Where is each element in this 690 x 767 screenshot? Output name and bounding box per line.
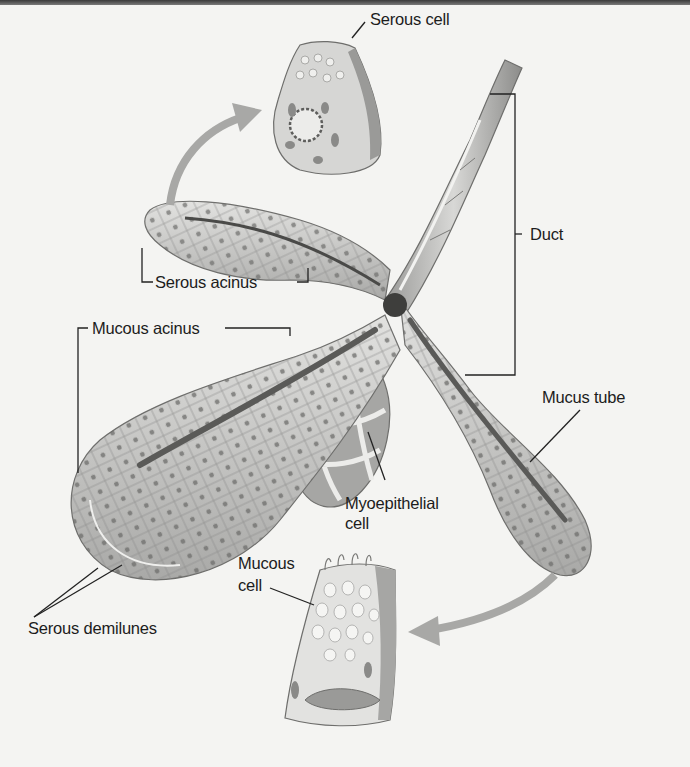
mucous-acinus-bracket-left xyxy=(78,328,88,473)
serous-cell-illustration xyxy=(274,42,381,175)
right-acinus-shape xyxy=(400,300,591,576)
mucous-acinus-bracket-right xyxy=(225,328,290,336)
label-myoepithelial-line2: cell xyxy=(345,514,369,533)
label-serous-demilunes: Serous demilunes xyxy=(28,619,157,638)
serous-demilune-leader-2 xyxy=(34,565,122,617)
duct-shape xyxy=(385,60,522,315)
mucous-cell-illustration xyxy=(285,554,396,726)
label-serous-acinus: Serous acinus xyxy=(155,273,257,292)
duct-junction xyxy=(383,293,407,317)
arrow-to-serous-cell xyxy=(170,103,262,205)
mucus-tube-leader xyxy=(530,410,580,462)
serous-demilune-leader-1 xyxy=(34,568,98,617)
arrow-to-mucous-cell xyxy=(408,575,555,646)
label-mucous-cell-line2: cell xyxy=(238,576,262,595)
serous-cell-leader xyxy=(352,22,365,38)
label-mucous-acinus: Mucous acinus xyxy=(92,319,199,338)
mucous-cell-leader xyxy=(270,588,314,605)
label-serous-cell: Serous cell xyxy=(370,10,449,29)
label-mucus-tube: Mucus tube xyxy=(542,388,625,407)
label-duct: Duct xyxy=(530,225,563,244)
gland-illustration xyxy=(0,0,690,767)
serous-acinus-bracket-left xyxy=(142,248,153,282)
label-myoepithelial-line1: Myoepithelial xyxy=(345,494,439,513)
label-mucous-cell-line1: Mucous xyxy=(238,554,295,573)
